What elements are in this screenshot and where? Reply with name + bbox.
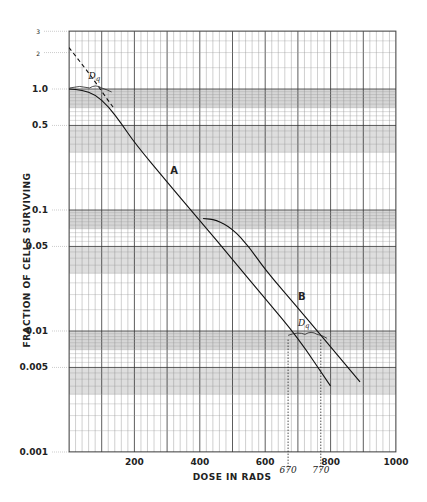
x-tick-label: 600	[256, 457, 275, 467]
y-tick-label: 0.005	[20, 362, 48, 372]
x-tick-label: 1000	[383, 457, 408, 467]
x-tick-label: 200	[125, 457, 144, 467]
y-tick-label: 0.001	[20, 447, 48, 457]
x-axis-ticks: 2004006008001000	[125, 457, 409, 467]
y-tick-label: 0.5	[32, 120, 48, 130]
survival-curve-chart: 321.00.50.10.050.010.0050.001 2004006008…	[0, 0, 427, 502]
curve-b	[203, 219, 360, 382]
dq-annotation: Dq	[88, 71, 101, 83]
y-tick-label: 3	[36, 28, 40, 35]
y-tick-label: 1.0	[32, 84, 48, 94]
x-axis-title: DOSE IN RADS	[193, 472, 272, 482]
y-axis-title: FRACTION OF CELLS SURVIVING	[22, 173, 32, 348]
x-tick-label: 400	[190, 457, 209, 467]
y-tick-label: 0.1	[32, 205, 48, 215]
y-tick-label: 2	[36, 50, 40, 57]
curve-label-b: B	[298, 291, 306, 302]
marker-label-670: 670	[279, 465, 296, 475]
curve-label-a: A	[170, 165, 178, 176]
marker-label-770: 770	[312, 465, 329, 475]
